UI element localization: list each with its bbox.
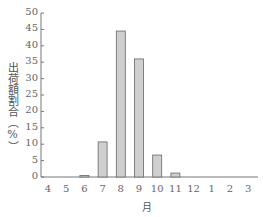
- y-tick-label: 25: [18, 88, 38, 99]
- x-tick-label: 5: [58, 183, 74, 194]
- x-axis-title: 月: [142, 199, 152, 214]
- bar-chart: 出荷額割合（%） 月 05101520253035404550 45678910…: [0, 0, 263, 217]
- y-tick-label: 45: [18, 22, 38, 33]
- y-tick-label: 20: [18, 104, 38, 115]
- bar: [80, 176, 89, 178]
- y-tick-label: 30: [18, 72, 38, 83]
- x-tick-label: 3: [240, 183, 256, 194]
- x-tick-label: 8: [113, 183, 129, 194]
- y-tick-label: 35: [18, 55, 38, 66]
- x-tick-label: 2: [222, 183, 238, 194]
- x-tick-label: 9: [131, 183, 147, 194]
- x-tick-label: 4: [40, 183, 56, 194]
- y-tick-label: 40: [18, 39, 38, 50]
- y-tick-label: 5: [18, 154, 38, 165]
- x-tick-label: 6: [76, 183, 92, 194]
- y-tick-label: 15: [18, 121, 38, 132]
- y-tick-label: 0: [18, 170, 38, 181]
- bar: [98, 142, 107, 177]
- x-tick-label: 1: [204, 183, 220, 194]
- y-tick-label: 50: [18, 6, 38, 17]
- bar: [153, 155, 162, 177]
- x-tick-label: 7: [95, 183, 111, 194]
- bar: [135, 59, 144, 177]
- bar: [171, 173, 180, 177]
- x-tick-label: 10: [149, 183, 165, 194]
- y-tick-label: 10: [18, 137, 38, 148]
- y-axis-title: 出荷額割合（%）: [5, 62, 19, 152]
- x-tick-label: 12: [186, 183, 202, 194]
- x-tick-label: 11: [167, 183, 183, 194]
- bar: [116, 31, 125, 177]
